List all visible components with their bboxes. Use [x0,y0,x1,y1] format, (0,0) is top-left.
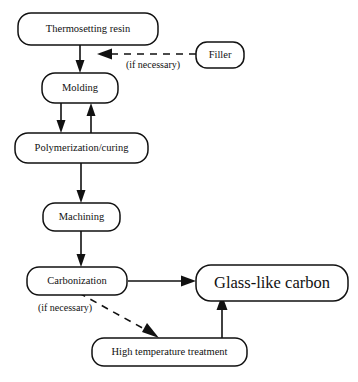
node-machining-label: Machining [43,212,120,223]
node-thermosetting-resin-label: Thermosetting resin [18,24,158,35]
node-filler-label: Filler [196,50,244,61]
node-polymerization-label: Polymerization/curing [15,143,148,154]
high-temperature-edge-note: (if necessary) [20,303,110,313]
node-carbonization-label: Carbonization [27,276,127,287]
node-high-temperature-treatment-label: High temperature treatment [92,347,247,358]
edge-polymerization-to-molding [87,103,96,133]
edge-filler-to-molding [97,49,196,60]
node-glass-like-carbon-label: Glass-like carbon [196,275,348,292]
edge-polymerization-to-machining [77,163,86,203]
edge-molding-to-polymerization [57,103,66,133]
node-molding-label: Molding [42,83,118,94]
edge-machining-to-carbonization [77,231,86,267]
edge-carbonization-to-glass-like-carbon [128,276,196,287]
edge-resin-to-molding [76,45,85,73]
flowchart-canvas [0,0,358,382]
process-flowchart: Thermosetting resin Filler Molding Polym… [0,0,358,382]
filler-edge-note: (if necessary) [108,60,198,70]
edge-carbonization-to-high-temperature [79,293,159,338]
